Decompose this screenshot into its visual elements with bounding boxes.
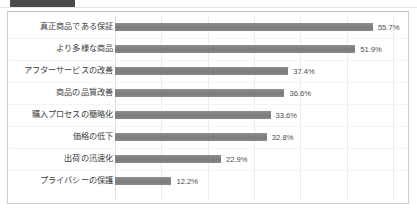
- bar-track: 32.8%: [115, 126, 404, 148]
- bar-row: 価格の低下32.8%: [8, 126, 408, 148]
- category-label: 商品の品質改善: [0, 88, 113, 98]
- bar[interactable]: [115, 177, 171, 185]
- category-label: アフターサービスの改善: [0, 66, 113, 76]
- bar-value-label: 22.9%: [226, 155, 248, 164]
- bar[interactable]: [115, 45, 355, 53]
- bar-row: 出荷の迅速化22.9%: [8, 148, 408, 170]
- bar-chart-plot-area: 真正商品である保証55.7%より多様な商品51.9%アフターサービスの改善37.…: [8, 12, 408, 203]
- category-label: 真正商品である保証: [0, 22, 113, 32]
- bar-value-label: 55.7%: [378, 23, 400, 32]
- bar-rows: 真正商品である保証55.7%より多様な商品51.9%アフターサービスの改善37.…: [8, 16, 408, 192]
- bar-row: より多様な商品51.9%: [8, 38, 408, 60]
- chart-card: 真正商品である保証55.7%より多様な商品51.9%アフターサービスの改善37.…: [7, 11, 409, 204]
- bar-value-label: 33.6%: [276, 111, 298, 120]
- bar-track: 33.6%: [115, 104, 404, 126]
- bar-track: 51.9%: [115, 38, 404, 60]
- bar[interactable]: [115, 111, 271, 119]
- category-label: 価格の低下: [0, 132, 113, 142]
- bar-value-label: 36.6%: [289, 89, 311, 98]
- bar[interactable]: [115, 155, 221, 163]
- bar[interactable]: [115, 67, 288, 75]
- category-label: プライバシーの保護: [0, 176, 113, 186]
- bar-value-label: 37.4%: [293, 67, 315, 76]
- bar-row: 真正商品である保証55.7%: [8, 16, 408, 38]
- category-label: より多様な商品: [0, 44, 113, 54]
- bar-track: 12.2%: [115, 170, 404, 192]
- bar-row: 購入プロセスの簡略化33.6%: [8, 104, 408, 126]
- window-chrome-strip: [0, 0, 417, 9]
- bar[interactable]: [115, 133, 267, 141]
- category-label: 出荷の迅速化: [0, 154, 113, 164]
- bar-track: 36.6%: [115, 82, 404, 104]
- chrome-divider: [0, 7, 417, 8]
- bar-row: プライバシーの保護12.2%: [8, 170, 408, 192]
- bar-value-label: 12.2%: [176, 177, 198, 186]
- bar-row: 商品の品質改善36.6%: [8, 82, 408, 104]
- bar-value-label: 32.8%: [272, 133, 294, 142]
- bar-track: 55.7%: [115, 16, 404, 38]
- bar-row: アフターサービスの改善37.4%: [8, 60, 408, 82]
- bar[interactable]: [115, 23, 373, 31]
- bar-track: 22.9%: [115, 148, 404, 170]
- bar[interactable]: [115, 89, 284, 97]
- bar-track: 37.4%: [115, 60, 404, 82]
- active-tab[interactable]: [10, 0, 75, 7]
- bar-value-label: 51.9%: [360, 45, 382, 54]
- category-label: 購入プロセスの簡略化: [0, 110, 113, 120]
